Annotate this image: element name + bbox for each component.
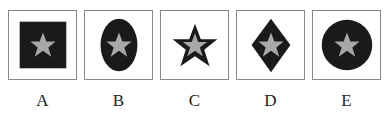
label-a: A [8,91,77,111]
label-d: D [236,91,305,111]
label-e: E [312,91,381,111]
ellipse-with-star-icon [85,11,152,79]
square-with-star-icon [9,11,76,79]
option-e[interactable] [312,10,381,80]
label-c: C [160,91,229,111]
circle-with-star-icon [313,11,380,79]
diamond-with-star-icon [237,11,304,79]
option-a[interactable] [8,10,77,80]
option-d[interactable] [236,10,305,80]
option-c[interactable] [160,10,229,80]
star-with-star-icon [161,11,228,79]
label-b: B [84,91,153,111]
option-b[interactable] [84,10,153,80]
